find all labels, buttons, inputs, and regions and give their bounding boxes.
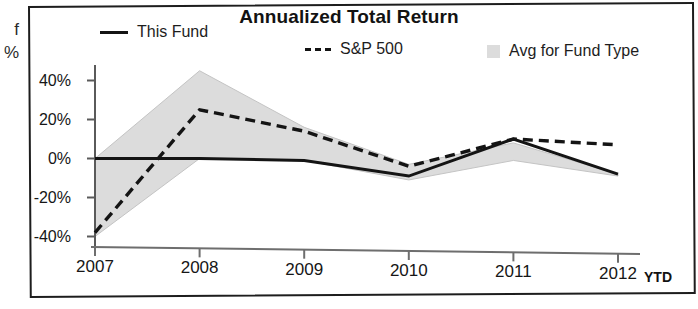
y-tick-label: 20%: [9, 112, 71, 128]
y-tick-label: -20%: [9, 190, 71, 206]
avg-fund-type-band-shape: [95, 71, 618, 237]
y-tick-label: -40%: [9, 229, 71, 245]
y-tick-label: 40%: [9, 73, 71, 89]
y-tick-label: 0%: [9, 151, 71, 167]
x-tick-label: 2010: [374, 262, 444, 279]
x-tick-label: 2009: [269, 261, 339, 278]
x-tick-label: 2011: [478, 263, 548, 280]
x-tick-label: 2012: [583, 265, 653, 282]
x-tick-label: 2008: [165, 259, 235, 276]
x-axis-line: [91, 247, 640, 254]
avg-fund-type-band: [95, 71, 618, 237]
chart-container: Annualized Total Return This Fund S&P 50…: [0, 0, 698, 309]
x-axis-unit-label: YTD: [644, 270, 672, 284]
x-tick-label: 2007: [60, 258, 130, 275]
